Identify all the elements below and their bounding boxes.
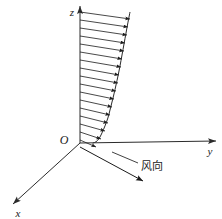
velocity-vector-arrow <box>80 60 121 67</box>
velocity-vector-arrow <box>80 68 119 75</box>
velocity-vector-arrow <box>80 36 125 43</box>
velocity-vector-arrow <box>80 92 114 99</box>
wind-profile-figure: z y x O 风向 <box>0 0 222 219</box>
velocity-vector-arrow <box>80 20 128 27</box>
wind-label-leader-line <box>112 152 138 163</box>
velocity-vector-arrow <box>80 124 105 131</box>
velocity-vector-arrow <box>80 100 112 107</box>
x-axis-line <box>13 143 80 204</box>
y-axis-line <box>80 141 216 143</box>
velocity-vector-arrow <box>80 52 122 59</box>
velocity-vector-arrow <box>80 12 130 19</box>
velocity-vector-arrow <box>80 84 116 91</box>
velocity-vector-arrow <box>80 132 101 139</box>
velocity-vector-arrow <box>80 108 110 115</box>
x-axis-label: x <box>15 207 21 219</box>
y-axis-label: y <box>207 145 213 157</box>
z-axis-label: z <box>69 6 75 18</box>
velocity-profile-curve <box>93 12 130 143</box>
wind-direction-label: 风向 <box>141 159 163 173</box>
wind-direction-arrow <box>80 147 143 181</box>
axis-group <box>13 6 216 204</box>
velocity-vector-arrow <box>80 116 108 123</box>
velocity-vector-arrow <box>80 44 124 51</box>
origin-label: O <box>60 133 69 147</box>
velocity-vector-arrow <box>80 140 96 147</box>
velocity-vector-arrow <box>80 28 127 35</box>
velocity-vector-arrow <box>80 76 118 83</box>
diagram-canvas: z y x O 风向 <box>0 0 222 219</box>
